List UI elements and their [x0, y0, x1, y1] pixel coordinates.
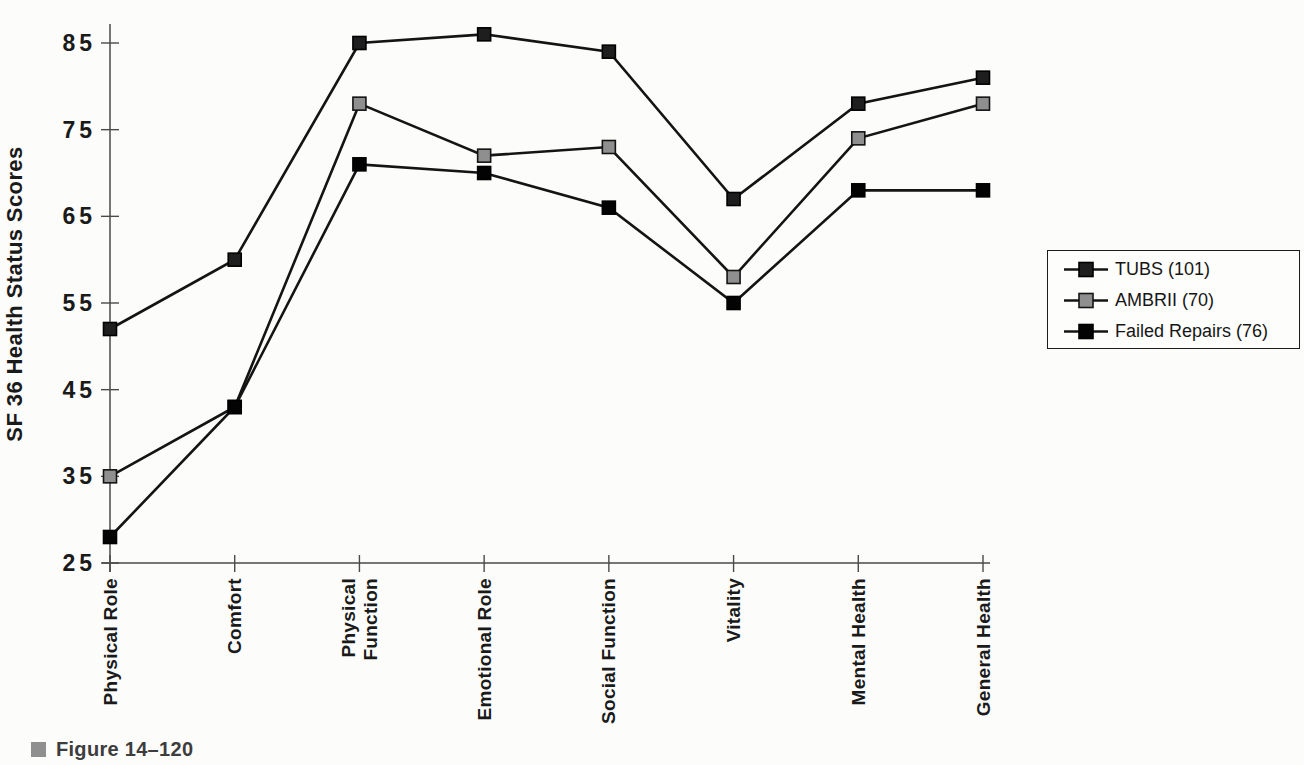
series-line-1: [110, 104, 983, 477]
legend-line-marker-icon: [1064, 323, 1110, 340]
series-marker-2: [228, 401, 241, 414]
series-marker-0: [852, 97, 865, 110]
x-category-label: Function: [360, 578, 381, 661]
series-marker-2: [353, 158, 366, 171]
series-marker-0: [727, 193, 740, 206]
series-marker-0: [228, 253, 241, 266]
series-marker-2: [852, 184, 865, 197]
legend-label: TUBS (101): [1115, 259, 1210, 280]
legend-label: AMBRII (70): [1115, 290, 1214, 311]
legend-item: AMBRII (70): [1064, 285, 1299, 316]
series-marker-1: [478, 149, 491, 162]
y-axis-title: SF 36 Health Status Scores: [2, 146, 27, 441]
series-marker-0: [353, 37, 366, 50]
series-marker-1: [353, 97, 366, 110]
y-tick-label: 75: [62, 117, 96, 143]
y-tick-label: 35: [62, 463, 96, 489]
series-marker-2: [727, 297, 740, 310]
y-tick-label: 65: [62, 203, 96, 229]
x-category-label: Physical Role: [100, 578, 121, 705]
series-marker-1: [852, 132, 865, 145]
legend-line-marker-icon: [1064, 292, 1110, 309]
x-category-label: Emotional Role: [474, 578, 495, 721]
x-category-label: Physical: [338, 578, 359, 658]
x-category-label: Mental Health: [848, 578, 869, 705]
legend-item: TUBS (101): [1064, 254, 1299, 285]
x-category-label: Comfort: [224, 578, 245, 654]
legend-line-marker-icon: [1064, 261, 1110, 278]
x-category-label: General Health: [973, 578, 994, 716]
x-category-label: Social Function: [598, 578, 619, 724]
series-marker-1: [977, 97, 990, 110]
series-marker-2: [478, 167, 491, 180]
legend-label: Failed Repairs (76): [1115, 321, 1268, 342]
series-marker-1: [104, 470, 117, 483]
figure-caption: Figure 14–120: [31, 738, 193, 761]
y-tick-label: 45: [62, 377, 96, 403]
series-marker-0: [977, 71, 990, 84]
series-marker-1: [727, 271, 740, 284]
series-marker-0: [478, 28, 491, 41]
series-marker-2: [977, 184, 990, 197]
series-line-0: [110, 34, 983, 329]
x-category-label: Vitality: [723, 578, 744, 642]
series-marker-2: [602, 201, 615, 214]
chart-legend: TUBS (101)AMBRII (70)Failed Repairs (76): [1047, 250, 1300, 349]
caption-text: Figure 14–120: [56, 738, 193, 761]
figure-14-120: SF 36 Health Status Scores 2535455565758…: [0, 0, 1304, 765]
y-tick-label: 55: [62, 290, 96, 316]
series-line-2: [110, 164, 983, 537]
series-marker-0: [104, 323, 117, 336]
y-tick-label: 85: [62, 30, 96, 56]
sf36-line-chart: SF 36 Health Status Scores 2535455565758…: [0, 0, 1304, 765]
series-marker-0: [602, 45, 615, 58]
legend-item: Failed Repairs (76): [1064, 316, 1299, 347]
series-marker-1: [602, 141, 615, 154]
y-tick-label: 25: [62, 550, 96, 576]
caption-square-bullet-icon: [31, 742, 46, 757]
series-marker-2: [104, 531, 117, 544]
